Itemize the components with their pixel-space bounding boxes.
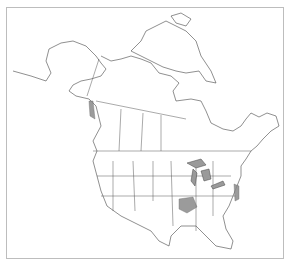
map-frame (6, 7, 284, 259)
north-america-map (7, 8, 283, 258)
great-lakes (187, 159, 225, 189)
coastline (13, 13, 279, 249)
political-borders (87, 59, 251, 231)
